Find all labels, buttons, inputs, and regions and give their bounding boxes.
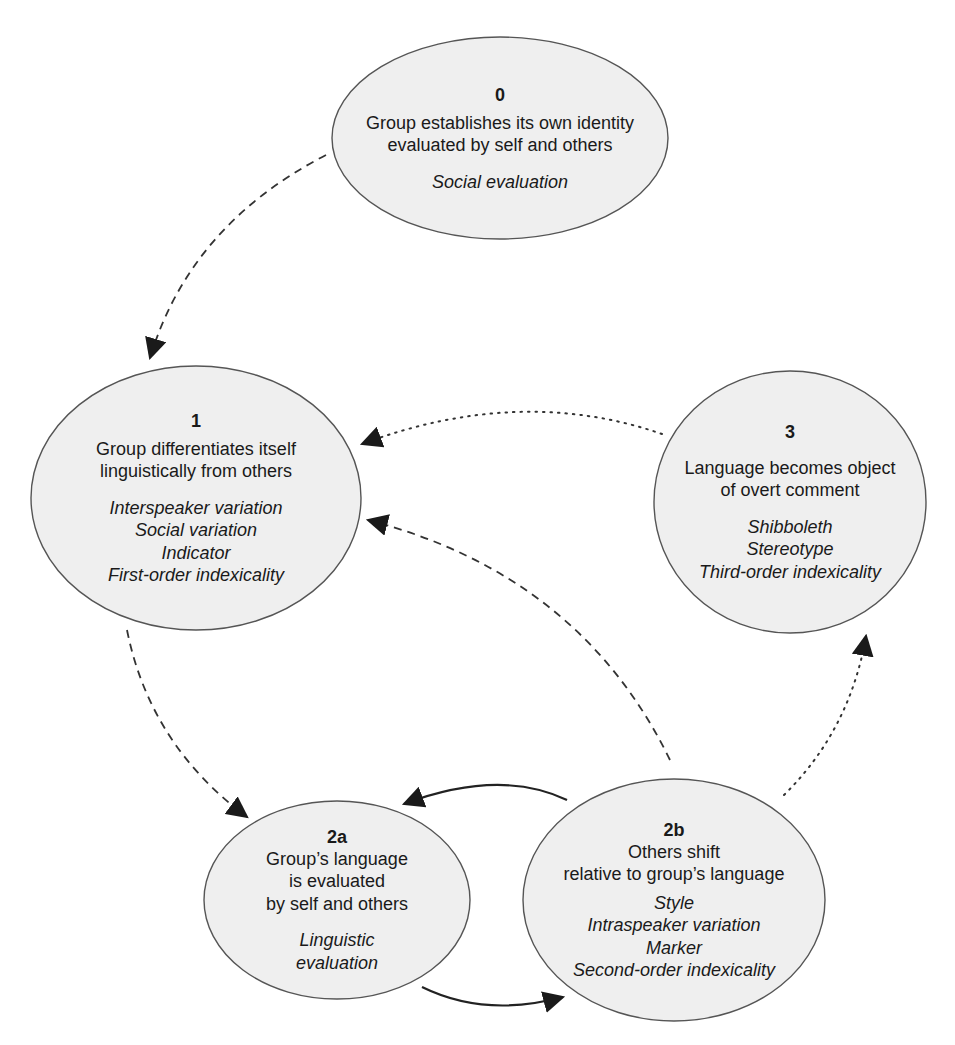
node-3-desc-line: Language becomes object [684,457,895,480]
node-2b-desc-line: relative to group’s language [564,863,785,886]
node-1: 1 Group differentiates itself linguistic… [31,366,361,630]
node-1-desc-line: Group differentiates itself [96,438,296,461]
node-0-desc-line: Group establishes its own identity [366,112,634,135]
node-2a-term: evaluation [296,952,378,975]
node-3-label: 3 [785,421,795,443]
node-1-term: Interspeaker variation [108,497,284,520]
node-1-description: Group differentiates itself linguistical… [96,438,296,483]
node-2a-terms: Linguistic evaluation [296,929,378,974]
node-2b-term: Second-order indexicality [573,959,775,982]
edge-2b-to-1-dashed-arrow [368,520,670,760]
node-2a-desc-line: Group’s language [266,848,408,871]
node-1-term: First-order indexicality [108,564,284,587]
node-2b-description: Others shift relative to group’s languag… [564,841,785,886]
edge-3-to-1-dotted-arrow [362,412,662,444]
node-1-desc-line: linguistically from others [96,460,296,483]
node-1-label: 1 [191,410,201,432]
node-3-description: Language becomes object of overt comment [684,457,895,502]
node-3-term: Stereotype [699,538,881,561]
node-2a: 2a Group’s language is evaluated by self… [204,801,470,999]
node-3-term: Shibboleth [699,516,881,539]
node-2a-desc-line: is evaluated [266,870,408,893]
node-3-term: Third-order indexicality [699,561,881,584]
node-2b-term: Intraspeaker variation [573,914,775,937]
node-2a-term: Linguistic [296,929,378,952]
edge-0-to-1-dashed-arrow [150,155,326,358]
node-0-term: Social evaluation [432,171,568,194]
node-0-desc-line: evaluated by self and others [366,134,634,157]
node-2a-description: Group’s language is evaluated by self an… [266,848,408,916]
node-2b-terms: Style Intraspeaker variation Marker Seco… [573,892,775,982]
node-2b-term: Style [573,892,775,915]
node-0-terms: Social evaluation [432,171,568,194]
node-1-term: Indicator [108,542,284,565]
node-2b-label: 2b [663,819,684,841]
node-2b-desc-line: Others shift [564,841,785,864]
node-3-desc-line: of overt comment [684,479,895,502]
node-3-terms: Shibboleth Stereotype Third-order indexi… [699,516,881,584]
node-1-terms: Interspeaker variation Social variation … [108,497,284,587]
node-3: 3 Language becomes object of overt comme… [654,371,926,633]
node-0-description: Group establishes its own identity evalu… [366,112,634,157]
node-0: 0 Group establishes its own identity eva… [332,37,668,240]
edge-1-to-2a-dashed-arrow [127,630,247,817]
edge-2b-to-3-dotted-arrow [784,636,866,795]
node-2b: 2b Others shift relative to group’s lang… [523,779,825,1021]
node-2a-desc-line: by self and others [266,893,408,916]
node-2a-label: 2a [327,826,347,848]
node-0-label: 0 [495,84,505,106]
node-2b-term: Marker [573,937,775,960]
node-1-term: Social variation [108,519,284,542]
